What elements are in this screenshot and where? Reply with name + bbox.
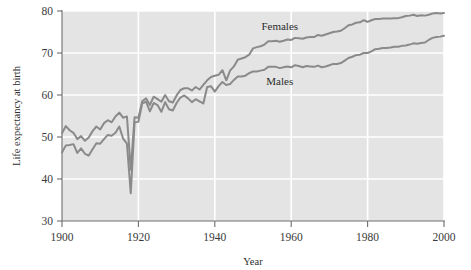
y-tick-label-80: 80 bbox=[42, 5, 54, 17]
series-label-males: Males bbox=[266, 75, 293, 87]
x-tick-label-1980: 1980 bbox=[356, 231, 379, 243]
y-tick-label-30: 30 bbox=[42, 215, 54, 227]
x-tick-label-1940: 1940 bbox=[203, 231, 226, 243]
x-tick-label-2000: 2000 bbox=[433, 231, 456, 243]
x-tick-label-1900: 1900 bbox=[51, 231, 74, 243]
y-tick-label-40: 40 bbox=[42, 173, 54, 185]
x-tick-label-1960: 1960 bbox=[280, 231, 303, 243]
y-tick-label-60: 60 bbox=[42, 89, 54, 101]
y-axis-title: Life expectancy at birth bbox=[11, 65, 22, 166]
life-expectancy-chart-figure: 304050607080 190019201940196019802000 Fe… bbox=[0, 0, 471, 270]
x-axis-title: Year bbox=[243, 256, 263, 267]
x-tick-label-1920: 1920 bbox=[127, 231, 150, 243]
y-tick-label-50: 50 bbox=[42, 131, 54, 143]
plot-area-background bbox=[62, 11, 444, 221]
series-label-females: Females bbox=[261, 20, 298, 32]
y-tick-label-70: 70 bbox=[42, 47, 54, 59]
chart-svg: 304050607080 190019201940196019802000 Fe… bbox=[0, 0, 471, 270]
